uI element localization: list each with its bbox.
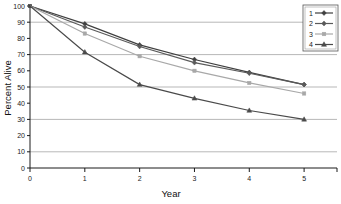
legend: 1234	[303, 5, 338, 51]
data-point-marker	[322, 32, 326, 36]
x-tick-label: 2	[138, 175, 142, 182]
y-tick-label: 50	[17, 84, 25, 91]
legend-entry-label: 3	[309, 31, 313, 38]
y-tick-label: 80	[17, 35, 25, 42]
y-tick-label: 10	[17, 148, 25, 155]
legend-entry-label: 4	[309, 41, 313, 48]
x-axis-title: Year	[161, 188, 180, 199]
y-tick-label: 60	[17, 67, 25, 74]
y-axis-title: Percent Alive	[2, 60, 13, 115]
survival-curve-chart: 0102030405060708090100 012345 1234 Year …	[0, 0, 341, 204]
data-point-marker	[138, 55, 141, 58]
chart-background	[0, 0, 341, 204]
y-tick-label: 100	[13, 3, 25, 10]
x-tick-label: 5	[302, 175, 306, 182]
y-tick-label: 40	[17, 100, 25, 107]
data-point-marker	[248, 81, 251, 84]
y-tick-label: 20	[17, 132, 25, 139]
x-tick-label: 3	[193, 175, 197, 182]
legend-entry-label: 1	[309, 10, 313, 17]
data-point-marker	[302, 92, 305, 95]
x-tick-label: 0	[28, 175, 32, 182]
chart-canvas: 0102030405060708090100 012345 1234 Year …	[0, 0, 341, 204]
y-tick-label: 0	[21, 165, 25, 172]
data-point-marker	[193, 69, 196, 72]
y-tick-label: 70	[17, 51, 25, 58]
x-tick-label: 1	[83, 175, 87, 182]
legend-entry-label: 2	[309, 20, 313, 27]
x-tick-label: 4	[247, 175, 251, 182]
data-point-marker	[83, 32, 86, 35]
y-tick-label: 90	[17, 19, 25, 26]
y-tick-label: 30	[17, 116, 25, 123]
